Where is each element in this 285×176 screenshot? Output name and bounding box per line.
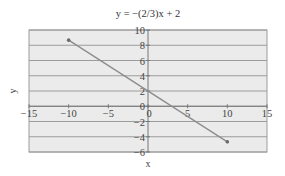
x-tick-label: −5 — [103, 108, 114, 119]
y-tick-label: 10 — [135, 25, 146, 36]
x-tick-label: 10 — [222, 108, 233, 119]
y-tick-label: −4 — [134, 132, 146, 143]
line-chart: y = −(2/3)x + 2 −15−10−50510151086420−2−… — [0, 0, 285, 176]
y-tick-label: 0 — [140, 101, 145, 112]
data-point-marker — [226, 140, 230, 144]
x-tick-label: −10 — [60, 108, 76, 119]
chart-title: y = −(2/3)x + 2 — [116, 8, 180, 20]
y-tick-label: 6 — [140, 56, 145, 67]
x-tick-label: 0 — [146, 108, 151, 119]
plot-area: −15−10−50510151086420−2−4−6 — [21, 25, 272, 158]
x-axis-label: x — [146, 158, 151, 169]
y-tick-label: −6 — [134, 147, 145, 158]
y-tick-label: 8 — [140, 40, 145, 51]
x-tick-label: 15 — [262, 108, 273, 119]
y-axis-label: y — [7, 89, 18, 94]
x-tick-label: −15 — [21, 108, 37, 119]
y-tick-label: 4 — [140, 71, 146, 82]
y-tick-label: −2 — [134, 117, 145, 128]
data-point-marker — [67, 38, 71, 42]
